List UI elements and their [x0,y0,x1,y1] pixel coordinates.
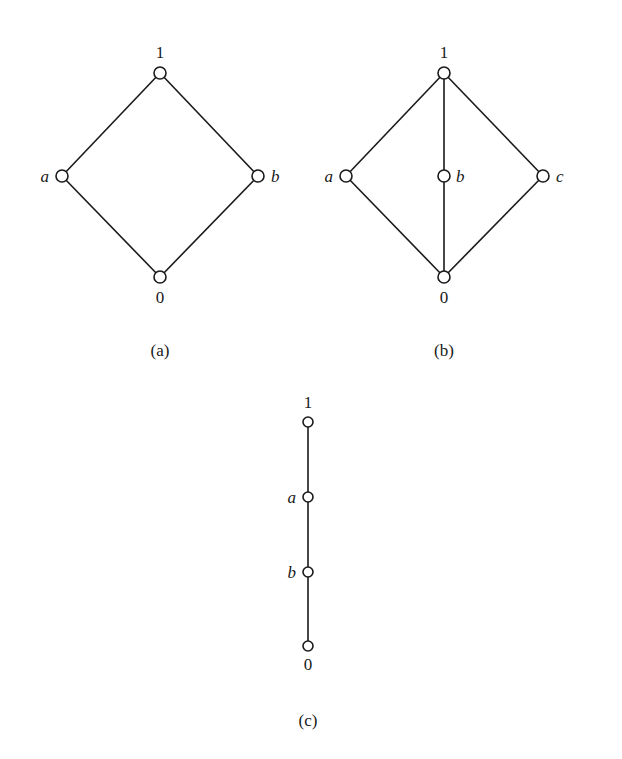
label-bottom: 0 [156,288,165,307]
edge-a-0 [62,176,160,277]
label-c: c [556,167,564,186]
hasse-diagram-a: 1 a b 0 (a) [41,43,280,360]
label-b: b [288,563,297,582]
edge-1-b [160,73,258,176]
edge-c-0 [444,176,543,277]
node-bottom [438,271,450,283]
node-top [438,67,450,79]
node-bottom [154,271,166,283]
label-bottom: 0 [304,655,313,674]
node-a [56,170,68,182]
label-b: b [456,167,465,186]
edge-1-a [62,73,160,176]
label-top: 1 [304,393,313,412]
label-top: 1 [156,43,165,62]
caption-b: (b) [434,341,454,360]
node-top [154,67,166,79]
label-b: b [271,167,280,186]
caption-c: (c) [299,711,318,730]
node-c [537,170,549,182]
label-a: a [325,167,334,186]
caption-a: (a) [151,341,170,360]
hasse-diagram-c: 1 a b 0 (c) [288,393,318,730]
edge-b-0 [160,176,258,277]
hasse-diagram-b: 1 a b c 0 (b) [325,43,565,360]
node-b [303,567,313,577]
node-b [252,170,264,182]
edge-a-0 [346,176,444,277]
label-a: a [41,167,50,186]
edge-1-c [444,73,543,176]
label-bottom: 0 [440,288,449,307]
node-bottom [303,641,313,651]
node-a [340,170,352,182]
node-top [303,417,313,427]
label-a: a [288,488,297,507]
label-top: 1 [440,43,449,62]
node-a [303,492,313,502]
edge-1-a [346,73,444,176]
lattice-figure: 1 a b 0 (a) 1 a b c 0 (b) 1 a b [0,0,622,759]
node-b [438,170,450,182]
